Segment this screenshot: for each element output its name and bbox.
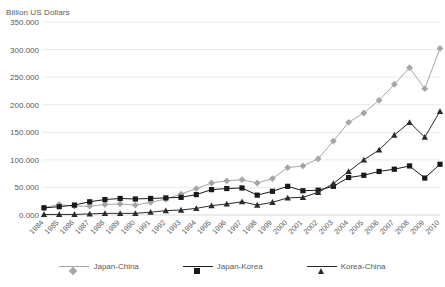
data-point [346, 175, 351, 180]
legend-label-japan-korea: Japan-Korea [217, 262, 263, 271]
data-point [57, 204, 62, 209]
x-axis-tick-label: 2002 [302, 218, 320, 236]
x-axis-tick-label: 2006 [362, 218, 380, 236]
x-axis-tick-label: 1991 [134, 218, 152, 236]
x-axis-tick-label: 2001 [286, 218, 304, 236]
data-point [239, 185, 244, 190]
x-axis-tick-label: 1996 [210, 218, 228, 236]
x-axis-tick-label: 1985 [43, 218, 61, 236]
data-point [407, 163, 412, 168]
x-axis-tick-label: 2009 [408, 218, 426, 236]
data-point [422, 175, 427, 180]
x-axis-tick-label: 1995 [195, 218, 213, 236]
data-point [254, 180, 261, 187]
data-point [117, 201, 124, 208]
legend-label-japan-china: Japan-China [93, 262, 138, 271]
data-point [209, 187, 214, 192]
data-point [41, 205, 46, 210]
data-point [239, 176, 246, 183]
data-point [361, 173, 366, 178]
chart-container: Billion US Dollars 0.00050.000100.000150… [0, 0, 445, 287]
data-point [285, 184, 290, 189]
data-point [376, 169, 381, 174]
x-axis-tick-label: 2005 [347, 218, 365, 236]
x-axis-tick-label: 1990 [119, 218, 137, 236]
data-point [87, 199, 92, 204]
x-axis-tick-label: 1999 [256, 218, 274, 236]
x-axis-tick-label: 1994 [180, 218, 198, 236]
y-axis-tick-label: 100.000 [10, 156, 39, 165]
legend-item-japan-china[interactable]: Japan-China [59, 262, 138, 271]
data-point [437, 45, 444, 52]
data-point [118, 196, 123, 201]
x-axis-tick-label: 1992 [149, 218, 167, 236]
legend-point-marker [69, 266, 77, 274]
series-line [44, 48, 440, 207]
x-axis-tick-label: 2010 [423, 218, 441, 236]
y-axis-tick-label: 0.000 [19, 211, 40, 220]
y-axis-tick-label: 50.000 [15, 183, 40, 192]
data-point [193, 185, 200, 192]
x-axis-tick-label: 1986 [58, 218, 76, 236]
data-point [270, 189, 275, 194]
x-axis-tick-label: 2003 [317, 218, 335, 236]
legend-marker-japan-korea [183, 262, 213, 271]
data-point [72, 202, 77, 207]
x-axis-tick-label: 1989 [104, 218, 122, 236]
y-axis-tick-label: 300.000 [10, 46, 39, 55]
data-point [224, 186, 229, 191]
x-axis-tick-label: 1988 [88, 218, 106, 236]
x-axis-tick-label: 1998 [241, 218, 259, 236]
line-chart-plot: 0.00050.000100.000150.000200.000250.0003… [0, 0, 445, 262]
legend-point-marker [194, 268, 200, 274]
data-point [300, 188, 305, 193]
data-point [300, 163, 307, 170]
x-axis-tick-label: 1993 [164, 218, 182, 236]
data-point [133, 196, 138, 201]
data-point [437, 108, 443, 114]
x-axis-tick-label: 2007 [378, 218, 396, 236]
legend-item-korea-china[interactable]: Korea-China [307, 262, 386, 271]
data-point [223, 177, 230, 184]
data-point [269, 175, 276, 182]
x-axis-tick-label: 1997 [225, 218, 243, 236]
data-point [421, 85, 428, 92]
data-point [392, 167, 397, 172]
x-axis-tick-label: 1984 [27, 218, 45, 236]
data-point [132, 202, 139, 209]
x-axis-tick-label: 2000 [271, 218, 289, 236]
data-point [255, 193, 260, 198]
legend-point-marker [318, 268, 324, 274]
legend-marker-japan-china [59, 262, 89, 271]
legend-item-japan-korea[interactable]: Japan-Korea [183, 262, 263, 271]
data-point [178, 195, 183, 200]
data-point [148, 196, 153, 201]
x-axis-tick-label: 1987 [73, 218, 91, 236]
y-axis-tick-label: 150.000 [10, 128, 39, 137]
y-axis-tick-label: 200.000 [10, 101, 39, 110]
series-korea-china [41, 108, 443, 217]
y-axis-tick-label: 350.000 [10, 18, 39, 27]
x-axis-tick-label: 2004 [332, 218, 350, 236]
x-axis-tick-label: 2008 [393, 218, 411, 236]
data-point [163, 195, 168, 200]
y-axis-tick-label: 250.000 [10, 73, 39, 82]
data-point [406, 119, 412, 125]
data-point [239, 199, 245, 205]
data-point [208, 180, 215, 187]
data-point [284, 164, 291, 171]
data-point [437, 162, 442, 167]
data-point [102, 197, 107, 202]
legend-marker-korea-china [307, 262, 337, 271]
legend-label-korea-china: Korea-China [341, 262, 386, 271]
data-point [194, 192, 199, 197]
chart-legend: Japan-China Japan-Korea Korea-China [0, 262, 445, 271]
